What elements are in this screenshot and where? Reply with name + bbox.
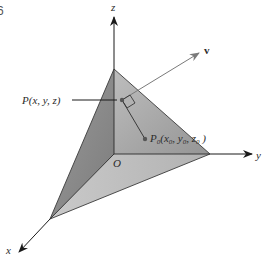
plane-normal-vector-diagram: 6 z y x O v P(x, y, z) P0(x0, y0, z0 ) xyxy=(0,0,273,263)
y-axis-label: y xyxy=(255,149,261,161)
point-p-label: P(x, y, z) xyxy=(21,94,61,107)
x-axis-label: x xyxy=(5,244,11,256)
x-axis xyxy=(19,219,50,252)
point-p0 xyxy=(143,137,147,141)
origin-label: O xyxy=(113,157,121,169)
figure-number: 6 xyxy=(0,4,4,18)
normal-vector-v xyxy=(122,53,199,100)
vector-label: v xyxy=(204,44,210,56)
point-p xyxy=(120,98,124,102)
z-axis-label: z xyxy=(110,1,116,13)
